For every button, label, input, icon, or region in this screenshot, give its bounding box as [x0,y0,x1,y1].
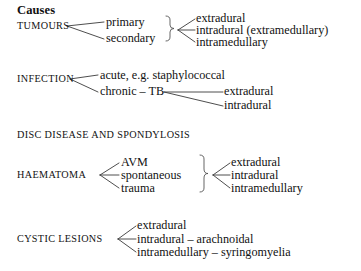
connector-tumours-primary [67,22,104,26]
branch-item-tumours-primary: primary [106,16,145,28]
brace-haematoma [200,155,208,192]
connector-haematoma-intramedullary [213,175,230,188]
branch-item-infection-acute: acute, e.g. staphylococcal [100,69,225,81]
category-label-infection: INFECTION [17,74,74,84]
leaf-item-infection-extradural: extradural [224,85,273,97]
page-title: Causes [17,4,55,17]
leaf-item-haematoma-intramedullary: intramedullary [231,182,303,194]
category-label-tumours: TUMOURS [17,21,69,31]
connector-tb-intradural [164,92,223,106]
category-label-haematoma: HAEMATOMA [17,170,86,180]
leaf-item-haematoma-intradural: intradural [231,169,278,181]
branch-item-haematoma-avm: AVM [121,156,148,168]
category-label-disc-disease: DISC DISEASE AND SPONDYLOSIS [17,130,190,140]
connector-tumours-secondary [67,26,104,39]
connector-cystic-intramedullary [118,239,136,252]
leaf-item-cystic-intradural: intradural – arachnoidal [137,233,253,245]
connector-tumours-extradural [178,19,195,30]
branch-item-haematoma-trauma: trauma [121,182,155,194]
leaf-item-cystic-extradural: extradural [137,219,186,231]
connector-infection-acute [70,75,98,79]
connector-infection-chronic [70,79,98,92]
connector-haematoma-trauma [100,175,119,188]
leaf-item-infection-intradural: intradural [224,99,271,111]
leaf-item-cystic-intramedullary: intramedullary – syringomyelia [137,246,291,258]
branch-item-infection-chronic: chronic – TB [100,85,164,97]
connector-haematoma-avm [100,163,119,175]
branch-item-haematoma-spontaneous: spontaneous [121,169,181,181]
leaf-item-tumours-intramedullary: intramedullary [196,36,268,48]
diagram-canvas: Causes TUMOURS primary secondary extradu… [0,0,361,271]
category-label-cystic-lesions: CYSTIC LESIONS [17,234,103,244]
connector-tumours-intramedullary [178,30,195,42]
leaf-item-haematoma-extradural: extradural [231,156,280,168]
brace-tumours [166,16,174,41]
connector-haematoma-extradural [213,163,230,175]
connector-cystic-extradural [118,226,136,239]
branch-item-tumours-secondary: secondary [106,32,155,44]
